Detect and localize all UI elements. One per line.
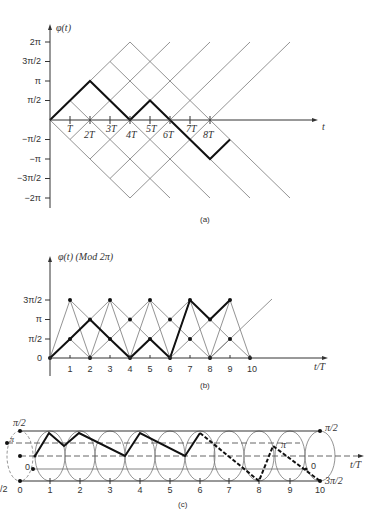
panel-c-right-top-label: π/2 xyxy=(325,423,338,433)
panel-c-right-zero-label: 0 xyxy=(311,461,316,471)
panel-c-left-pi-label: π xyxy=(10,435,14,445)
phase-cylinder xyxy=(7,431,364,484)
panel-c-xtick: 6 xyxy=(190,485,210,495)
panel-c-xtick: 2 xyxy=(70,485,90,495)
panel-c-xtick: 10 xyxy=(310,485,330,495)
panel-c-xtick: 4 xyxy=(130,485,150,495)
panel-c-left-zero-label: 0 xyxy=(25,462,30,472)
panel-c-left-top-label: π/2 xyxy=(13,418,26,428)
panel-c-left-bottom-label: /2 xyxy=(0,484,8,494)
panel-c-xtick: 3 xyxy=(100,485,120,495)
panel-c xyxy=(0,0,386,511)
panel-c-x-axis-label: t/T xyxy=(350,460,361,470)
panel-c-xtick: 9 xyxy=(280,485,300,495)
panel-c-caption: (c) xyxy=(178,500,187,510)
panel-c-xtick: 1 xyxy=(40,485,60,495)
panel-c-xtick: 7 xyxy=(219,485,239,495)
panel-c-xtick: 8 xyxy=(249,485,269,495)
panel-c-xtick: 5 xyxy=(160,485,180,495)
panel-c-xtick: 0 xyxy=(10,485,30,495)
panel-c-right-pi-label: π xyxy=(281,440,286,450)
